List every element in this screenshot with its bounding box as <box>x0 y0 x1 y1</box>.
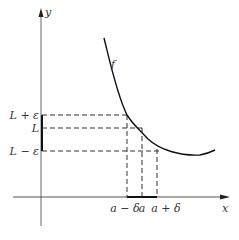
curve-f <box>104 38 215 155</box>
x-axis-arrow-icon <box>220 195 230 200</box>
x-axis-label: x <box>222 202 229 215</box>
limit-diagram: y x f L + ε L L − ε a − δ a a + δ <box>0 0 239 240</box>
label-a-plus-delta: a + δ <box>151 202 181 215</box>
y-axis-arrow-icon <box>39 8 44 17</box>
curve-label: f <box>110 58 117 71</box>
label-l: L <box>31 122 39 135</box>
label-l-plus-eps: L + ε <box>9 109 40 122</box>
label-a: a <box>139 202 146 215</box>
label-l-minus-eps: L − ε <box>9 145 40 158</box>
label-a-minus-delta: a − δ <box>110 202 140 215</box>
y-axis-label: y <box>44 6 52 19</box>
